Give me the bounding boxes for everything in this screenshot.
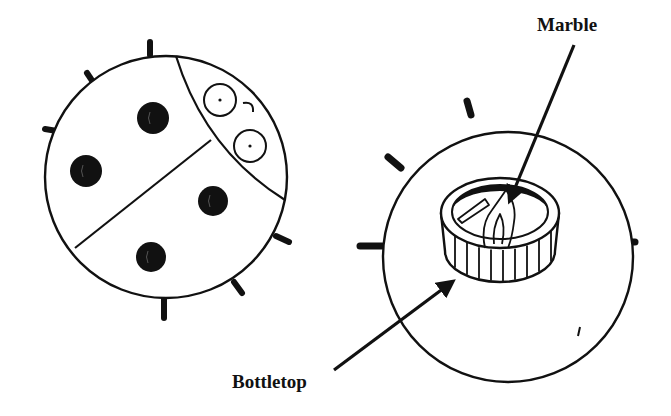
spot (198, 186, 228, 216)
leg (234, 282, 242, 293)
spot (137, 102, 169, 134)
diagram-canvas (0, 0, 671, 416)
ladybug-underside-view (360, 101, 635, 382)
bottletop-label: Bottletop (232, 372, 307, 391)
bottletop (441, 178, 559, 282)
leg (467, 101, 471, 115)
marble-label: Marble (537, 15, 597, 34)
leg (276, 236, 289, 242)
pupil (218, 98, 221, 101)
leg (388, 157, 401, 168)
pupil (248, 144, 251, 147)
spot (136, 242, 166, 272)
spot (70, 155, 102, 187)
ladybug-top-view (45, 42, 289, 318)
